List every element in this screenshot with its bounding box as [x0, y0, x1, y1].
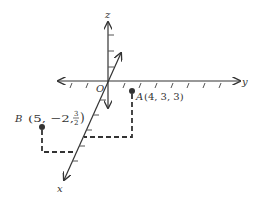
z-axis-label: z [104, 9, 111, 20]
origin-label: O [96, 83, 104, 94]
point-a [129, 88, 135, 94]
y-axis-label: y [241, 76, 248, 87]
point-a-coords: (4, 3, 3) [144, 91, 184, 102]
coordinate-diagram: z y x O A (4, 3, 3) B (5, −2, 3 2 ) [0, 0, 259, 211]
point-b-frac-den: 2 [74, 119, 78, 127]
z-axis-ticks [108, 35, 114, 67]
point-b-label: B (5, −2, 3 2 ) [14, 110, 85, 127]
point-b-coords-prefix: (5, −2, [28, 113, 74, 124]
point-a-name: A [135, 91, 143, 102]
point-b-frac-num: 3 [74, 110, 78, 118]
point-b-name: B [14, 113, 22, 124]
x-axis-label: x [57, 183, 63, 194]
y-axis [58, 81, 240, 88]
point-b [39, 124, 45, 130]
z-axis [108, 22, 114, 108]
point-a-label: A (4, 3, 3) [135, 91, 184, 102]
y-axis-ticks [70, 83, 221, 88]
point-b-projection [42, 130, 76, 152]
point-b-coords-suffix: ) [80, 111, 85, 125]
